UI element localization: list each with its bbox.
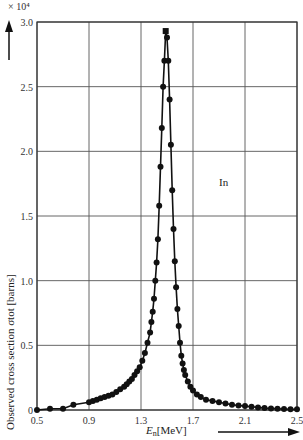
y-multiplier: × 10⁴ [8,1,30,12]
data-point [262,405,268,411]
y-tick-labels: 00.51.01.52.02.53.0 [21,17,34,416]
y-axis-arrow-icon [5,20,13,60]
x-axis-label: En[MeV] [145,424,187,438]
data-point [198,394,204,400]
data-point [172,258,178,264]
y-tick-label: 2.0 [21,146,34,157]
data-point [150,309,156,315]
data-point [158,164,164,170]
data-point [160,84,166,90]
data-point [223,401,229,407]
cross-section-chart: 0.50.91.31.72.12.5 00.51.01.52.02.53.0 ×… [0,0,303,440]
data-point [176,323,182,329]
x-tick-label: 2.5 [291,415,303,426]
y-tick-label: 0 [28,405,33,416]
data-point [142,350,148,356]
data-point [281,406,287,412]
data-point [185,379,191,385]
data-point [156,203,162,209]
data-point [288,406,294,412]
x-axis-arrow-icon [218,428,300,436]
data-point [164,35,170,41]
x-tick-label: 1.7 [187,415,200,426]
data-point [155,236,161,242]
data-point [152,278,158,284]
y-tick-label: 1.0 [21,276,34,287]
data-point [137,364,143,370]
peak-marker [163,28,169,34]
data-point [47,406,53,412]
data-point [173,284,179,290]
data-point [148,319,154,325]
data-point [154,260,160,266]
y-tick-label: 2.5 [21,82,34,93]
data-point [171,226,177,232]
data-point [145,340,151,346]
x-tick-label: 2.1 [239,415,252,426]
data-point [275,406,281,412]
data-point [255,404,261,410]
data-point [168,142,174,148]
data-point [139,358,145,364]
data-point [268,405,274,411]
data-point [216,399,222,405]
data-point [181,367,187,373]
data-point [70,402,76,408]
data-point [242,403,248,409]
data-points [34,28,300,413]
annotation-in: In [219,176,229,188]
data-point [147,329,153,335]
data-point [167,97,173,103]
data-point [229,402,235,408]
data-point [159,125,165,131]
data-point [165,58,171,64]
data-point [177,340,183,346]
grid [37,22,297,410]
y-tick-label: 3.0 [21,17,34,28]
y-tick-label: 1.5 [21,211,34,222]
data-point [169,187,175,193]
data-point [174,306,180,312]
data-point [294,406,300,412]
data-point [249,404,255,410]
x-tick-label: 0.5 [31,415,44,426]
y-axis-label: Observed cross section σtot [barns] [4,274,16,430]
data-point [34,407,40,413]
data-point [182,372,188,378]
data-point [151,296,157,302]
y-tick-label: 0.5 [21,340,34,351]
data-point [60,406,66,412]
x-tick-label: 0.9 [83,415,96,426]
data-point [203,397,209,403]
data-point [178,353,184,359]
data-line [37,31,297,410]
data-point [210,398,216,404]
data-point [180,360,186,366]
data-point [236,402,242,408]
